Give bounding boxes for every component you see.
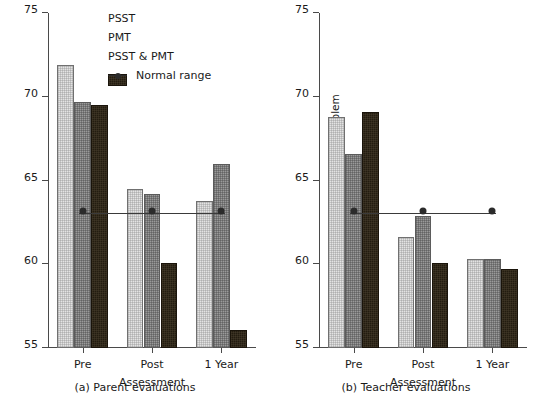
x-axis-label-pre: Pre xyxy=(319,359,388,370)
normal-range-marker-2 xyxy=(489,207,496,214)
y-axis-tick-label-55: 55 xyxy=(24,339,38,350)
y-axis-tick-55: 55 xyxy=(42,347,48,348)
panel-teacher-evaluations: CBCL-TRF total behavior problem Assessme… xyxy=(271,0,541,401)
bar-psst-pre xyxy=(328,117,345,348)
bar-psst-pmt-pre xyxy=(91,105,108,348)
y-axis-tick-75: 75 xyxy=(313,12,319,13)
bar-psst-pmt-1-year xyxy=(501,269,518,348)
y-axis-tick-label-65: 65 xyxy=(295,172,309,183)
x-axis-label-1-year: 1 Year xyxy=(187,359,256,370)
y-axis-tick-label-65: 65 xyxy=(24,172,38,183)
bar-psst-post xyxy=(398,237,415,348)
y-axis-tick-70: 70 xyxy=(313,96,319,97)
caption-a: (a) Parent evaluations xyxy=(0,382,270,394)
bar-psst-pmt-1-year xyxy=(230,330,247,348)
y-axis-tick-60: 60 xyxy=(313,263,319,264)
x-axis-tick-1-year xyxy=(492,348,493,353)
caption-b: (b) Teacher evaluations xyxy=(271,382,541,394)
bar-pmt-post xyxy=(144,194,161,348)
x-axis-label-post: Post xyxy=(117,359,186,370)
y-axis-tick-70: 70 xyxy=(42,96,48,97)
normal-range-marker-1 xyxy=(149,207,156,214)
legend-label-psst-pmt: PSST & PMT xyxy=(108,51,174,63)
y-axis-tick-75: 75 xyxy=(42,12,48,13)
bar-psst-pmt-post xyxy=(432,263,449,348)
x-axis-tick-pre xyxy=(354,348,355,353)
y-axis-tick-label-75: 75 xyxy=(24,4,38,15)
x-axis-tick-post xyxy=(423,348,424,353)
legend-line-marker xyxy=(115,73,121,79)
legend-label-psst: PSST xyxy=(108,13,135,25)
figure-two-panel-bar-charts: CBCL total behavior problem Assessment 5… xyxy=(0,0,541,401)
legend-label-normal-range: Normal range xyxy=(136,70,211,82)
legend-item-psst: PSST xyxy=(108,10,248,27)
x-axis-label-pre: Pre xyxy=(48,359,117,370)
y-axis-tick-label-60: 60 xyxy=(24,255,38,266)
legend-item-pmt: PMT xyxy=(108,29,248,46)
y-axis-tick-label-60: 60 xyxy=(295,255,309,266)
bar-pmt-pre xyxy=(74,102,91,348)
bar-psst-pre xyxy=(57,65,74,348)
line-with-dot-icon xyxy=(108,70,127,82)
y-axis-tick-65: 65 xyxy=(42,180,48,181)
bar-psst-pmt-post xyxy=(161,263,178,348)
bar-psst-1-year xyxy=(196,201,213,348)
panel-parent-evaluations: CBCL total behavior problem Assessment 5… xyxy=(0,0,270,401)
normal-range-marker-2 xyxy=(218,207,225,214)
bar-pmt-1-year xyxy=(213,164,230,348)
bar-psst-1-year xyxy=(467,259,484,348)
x-axis-label-post: Post xyxy=(388,359,457,370)
y-axis-tick-55: 55 xyxy=(313,347,319,348)
legend-item-psst-pmt: PSST & PMT xyxy=(108,48,248,65)
y-axis-tick-label-55: 55 xyxy=(295,339,309,350)
x-axis-tick-post xyxy=(152,348,153,353)
y-axis-line-a xyxy=(48,13,49,348)
x-axis-label-1-year: 1 Year xyxy=(458,359,527,370)
y-axis-line-b xyxy=(319,13,320,348)
normal-range-marker-1 xyxy=(420,207,427,214)
y-axis-tick-60: 60 xyxy=(42,263,48,264)
legend-item-normal-range: Normal range xyxy=(108,67,248,84)
bar-pmt-post xyxy=(415,216,432,348)
x-axis-tick-1-year xyxy=(221,348,222,353)
x-axis-tick-pre xyxy=(83,348,84,353)
legend-label-pmt: PMT xyxy=(108,32,131,44)
bar-psst-pmt-pre xyxy=(362,112,379,348)
y-axis-tick-label-75: 75 xyxy=(295,4,309,15)
y-axis-tick-label-70: 70 xyxy=(24,88,38,99)
plot-area-b: CBCL-TRF total behavior problem Assessme… xyxy=(319,13,527,348)
y-axis-tick-65: 65 xyxy=(313,180,319,181)
bar-pmt-pre xyxy=(345,154,362,348)
legend: PSST PMT PSST & PMT Normal range xyxy=(108,10,248,86)
bar-pmt-1-year xyxy=(484,259,501,348)
normal-range-marker-0 xyxy=(350,207,357,214)
y-axis-tick-label-70: 70 xyxy=(295,88,309,99)
normal-range-marker-0 xyxy=(79,207,86,214)
